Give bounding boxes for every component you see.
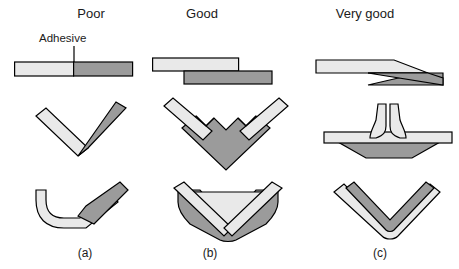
- tee-fillet-joint-icon: [320, 102, 456, 168]
- adhesive-joint-design-figure: Poor Good Very good Adhesive: [0, 0, 459, 269]
- caption-c: (c): [325, 246, 435, 260]
- vee-channel-joint-icon: [166, 182, 290, 244]
- caption-b: (b): [155, 246, 265, 260]
- scarf-joint-icon: [312, 52, 452, 90]
- bent-strip-lap-icon: [34, 180, 154, 242]
- angle-butt-joint-icon: [34, 100, 154, 170]
- lap-joint-icon: [152, 52, 297, 90]
- vee-block-joint-icon: [162, 98, 290, 176]
- butt-joint-icon: [14, 58, 144, 84]
- caption-a: (a): [30, 246, 140, 260]
- nested-vee-joint-icon: [330, 182, 448, 244]
